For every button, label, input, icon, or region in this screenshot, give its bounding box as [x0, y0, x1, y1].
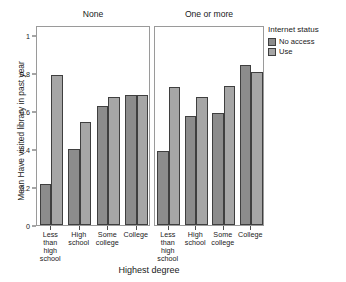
y-axis-tick-label: 0 — [26, 222, 30, 231]
bar — [251, 72, 262, 225]
legend: Internet status No access Use — [268, 25, 346, 57]
panel-strip-one-or-more: One or more — [154, 6, 264, 22]
legend-label-use: Use — [279, 47, 293, 56]
legend-swatch-use — [268, 48, 276, 56]
bar — [51, 75, 63, 225]
y-axis-tick-label: 0.6 — [20, 107, 30, 116]
y-axis-tick-label: 1 — [26, 31, 30, 40]
x-axis-labels-one-or-more: Less than high schoolHigh schoolSome col… — [154, 231, 264, 265]
y-axis-tick-label: 0.4 — [20, 145, 30, 154]
y-axis-tick-label: 0.8 — [20, 69, 30, 78]
bar — [125, 95, 137, 225]
plot-area-none — [37, 27, 149, 225]
x-axis-title: Highest degree — [34, 265, 264, 275]
bar-chart: Mean Have visited library in past year 0… — [0, 0, 346, 282]
legend-item-use: Use — [268, 47, 346, 56]
x-axis-labels-none: Less than high schoolHigh schoolSome col… — [36, 231, 150, 265]
bar — [97, 106, 109, 225]
bar — [40, 184, 52, 225]
bar — [108, 97, 120, 225]
bar — [68, 149, 80, 225]
panel-one-or-more — [154, 26, 264, 226]
legend-title: Internet status — [268, 25, 346, 34]
panel-strip-none: None — [36, 6, 150, 22]
y-axis-tick-label: 0.2 — [20, 183, 30, 192]
bar — [185, 116, 196, 225]
bar — [240, 65, 251, 225]
bar — [224, 86, 235, 225]
bar — [80, 122, 92, 225]
plot-area-one-or-more — [155, 27, 263, 225]
bar — [196, 97, 207, 225]
legend-swatch-no-access — [268, 38, 276, 46]
bar — [137, 95, 149, 225]
x-axis-tick-label: College — [230, 231, 270, 239]
legend-label-no-access: No access — [279, 37, 314, 46]
bar — [212, 113, 223, 225]
bar — [169, 87, 180, 225]
legend-item-no-access: No access — [268, 37, 346, 46]
bar — [157, 151, 168, 225]
panel-none — [36, 26, 150, 226]
